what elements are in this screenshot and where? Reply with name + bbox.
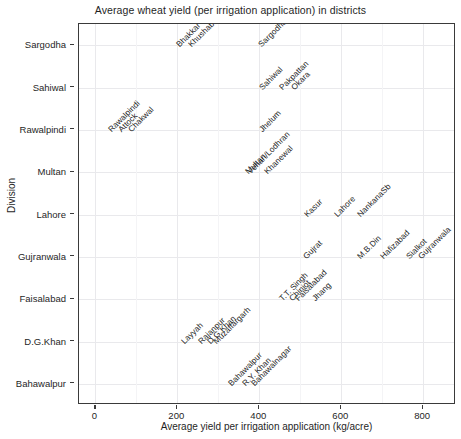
y-axis-tick-label: Bahawalpur bbox=[16, 377, 66, 388]
gridline-y bbox=[79, 257, 454, 258]
gridline-x bbox=[95, 24, 96, 403]
gridline-x bbox=[177, 24, 178, 403]
gridline-y bbox=[79, 299, 454, 300]
y-axis-tick-label: Lahore bbox=[36, 208, 66, 219]
x-axis-tick-mark bbox=[340, 405, 341, 409]
x-axis-tick-mark bbox=[176, 405, 177, 409]
y-axis-tick-mark bbox=[70, 86, 74, 87]
y-axis-tick-mark bbox=[70, 213, 74, 214]
y-axis-tick-mark bbox=[70, 340, 74, 341]
data-point-label: NankanaSb bbox=[355, 182, 392, 219]
gridline-x bbox=[259, 24, 260, 403]
wheat-yield-scatter-chart: Average wheat yield (per irrigation appl… bbox=[0, 0, 461, 439]
chart-title: Average wheat yield (per irrigation appl… bbox=[0, 4, 461, 16]
y-axis-tick-mark bbox=[70, 171, 74, 172]
y-axis-tick-mark bbox=[70, 298, 74, 299]
x-axis-tick-mark bbox=[258, 405, 259, 409]
gridline-y bbox=[79, 342, 454, 343]
gridline-x-minor bbox=[218, 24, 219, 403]
y-axis-tick-mark bbox=[70, 44, 74, 45]
gridline-x-minor bbox=[382, 24, 383, 403]
x-axis-tick-labels: 0200400600800 bbox=[78, 405, 455, 421]
gridline-x bbox=[423, 24, 424, 403]
y-axis-tick-label: Sahiwal bbox=[33, 81, 66, 92]
y-axis-tick-label: Rawalpindi bbox=[20, 123, 66, 134]
x-axis-tick-mark bbox=[422, 405, 423, 409]
gridline-x-minor bbox=[136, 24, 137, 403]
y-axis-tick-label: Sargodha bbox=[25, 39, 66, 50]
x-axis-tick-label: 0 bbox=[92, 410, 97, 421]
y-axis-tick-label: Faisalabad bbox=[20, 293, 66, 304]
y-axis-tick-mark bbox=[70, 128, 74, 129]
plot-panel: BhakkarKhushabSargodhaSahiwalPakpattanOk… bbox=[78, 23, 455, 404]
y-axis-tick-mark bbox=[70, 255, 74, 256]
gridline-y bbox=[79, 384, 454, 385]
x-axis-tick-label: 600 bbox=[332, 410, 348, 421]
x-axis-tick-label: 200 bbox=[168, 410, 184, 421]
y-axis-tick-label: Gujranwala bbox=[18, 250, 66, 261]
y-axis-tick-labels: BahawalpurD.G.KhanFaisalabadGujranwalaLa… bbox=[0, 23, 74, 404]
x-axis-tick-mark bbox=[94, 405, 95, 409]
y-axis-tick-label: D.G.Khan bbox=[24, 335, 66, 346]
y-axis-tick-mark bbox=[70, 382, 74, 383]
x-axis-title: Average yield per irrigation application… bbox=[78, 421, 455, 432]
x-axis-tick-label: 800 bbox=[414, 410, 430, 421]
x-axis-tick-label: 400 bbox=[250, 410, 266, 421]
y-axis-tick-label: Multan bbox=[37, 166, 66, 177]
gridline-y bbox=[79, 215, 454, 216]
